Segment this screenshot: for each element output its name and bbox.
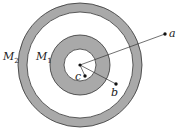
shells-diagram: M2 M1 a b c [0, 0, 182, 128]
label-m1: M1 [35, 50, 52, 65]
label-b: b [111, 86, 118, 99]
label-m2: M2 [2, 50, 19, 65]
point-c [83, 74, 86, 77]
label-c: c [75, 70, 81, 83]
point-a [163, 32, 166, 35]
label-a: a [169, 27, 176, 40]
center-point [78, 63, 81, 66]
